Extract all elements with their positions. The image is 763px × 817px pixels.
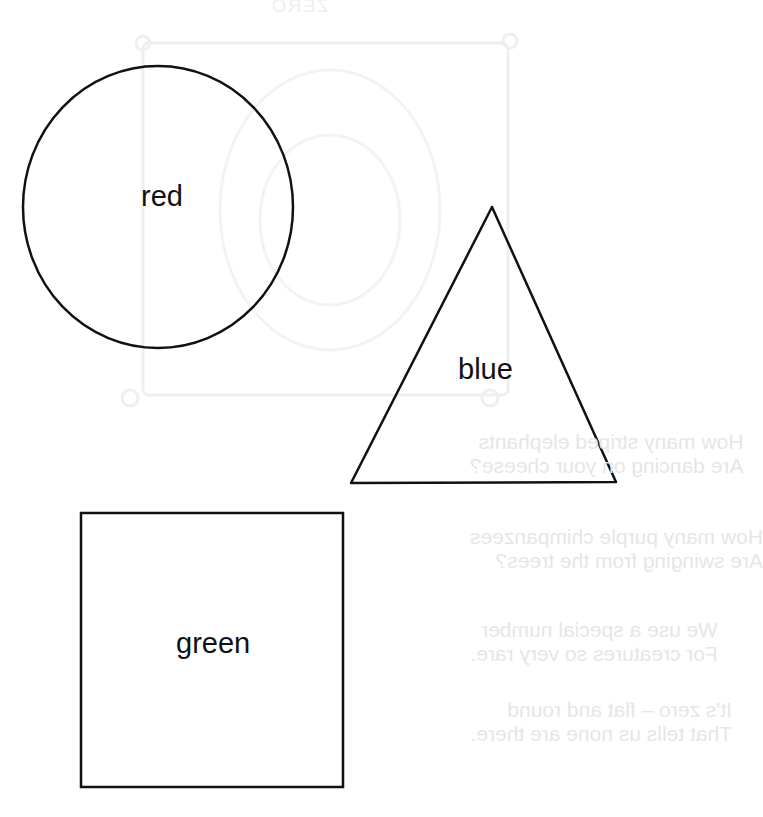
bleed-through-line: How many striped elephants [470, 430, 743, 454]
bleed-through-line: For creatures so very rare. [470, 642, 717, 666]
bleed-through-stanza-2: How many purple chimpanzees Are swinging… [470, 525, 763, 573]
square-label: green [176, 629, 250, 658]
bleed-through-line: Are swinging from the trees? [470, 549, 763, 573]
bleed-through-stanza-1: How many striped elephants Are dancing o… [470, 430, 743, 478]
triangle-label: blue [458, 355, 513, 384]
bleed-through-stanza-4: It's zero – flat and round That tells us… [470, 698, 732, 746]
bleed-through-line: We use a special number [470, 618, 717, 642]
bleed-through-frame [122, 34, 517, 406]
circle-label: red [141, 182, 183, 211]
bleed-through-line: Are dancing on your cheese? [470, 454, 743, 478]
bleed-through-stanza-3: We use a special number For creatures so… [470, 618, 717, 666]
bleed-through-line: How many purple chimpanzees [470, 525, 763, 549]
bleed-through-line: It's zero – flat and round [470, 698, 732, 722]
bleed-through-line: That tells us none are there. [470, 722, 732, 746]
